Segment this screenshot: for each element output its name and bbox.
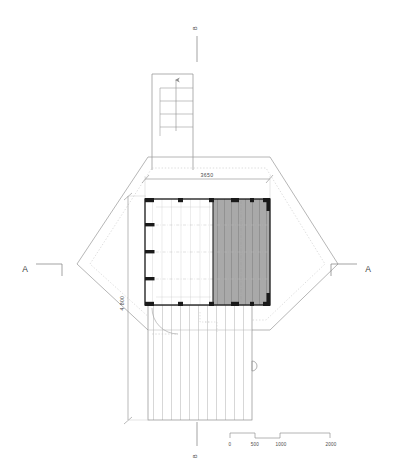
section-a-right-label: A xyxy=(365,264,371,274)
section-a-left-label: A xyxy=(22,264,28,274)
section-b-top[interactable]: B xyxy=(192,26,198,62)
scale-tick-2000: 2000 xyxy=(325,442,336,447)
section-a-right[interactable]: A xyxy=(331,264,371,276)
section-a-left[interactable]: A xyxy=(22,264,62,276)
scale-bar-steps xyxy=(230,433,330,438)
scale-tick-1000: 1000 xyxy=(275,442,286,447)
stair-run[interactable] xyxy=(152,74,193,170)
dimension-top-3650: 3650 xyxy=(142,172,273,198)
shaded-veranda-zone xyxy=(213,199,270,305)
scale-tick-500: 500 xyxy=(251,442,260,447)
dim-top-label: 3650 xyxy=(201,172,214,178)
section-b-top-label: B xyxy=(192,26,198,30)
section-b-bottom-label: B xyxy=(192,454,198,458)
section-a-left-leader xyxy=(36,264,62,276)
plan-canvas: B xyxy=(0,0,393,476)
floor-plan-drawing: B xyxy=(0,0,393,476)
section-a-right-leader xyxy=(331,264,357,276)
scale-bar: 0 500 1000 2000 xyxy=(229,433,337,447)
round-fixture-icon xyxy=(252,361,257,371)
dim-left-label: 4 800 xyxy=(119,296,125,311)
main-building-rectangle[interactable] xyxy=(145,198,270,306)
stair-treads xyxy=(160,88,193,136)
scale-tick-0: 0 xyxy=(229,442,232,447)
section-b-bottom[interactable]: B xyxy=(192,422,198,458)
